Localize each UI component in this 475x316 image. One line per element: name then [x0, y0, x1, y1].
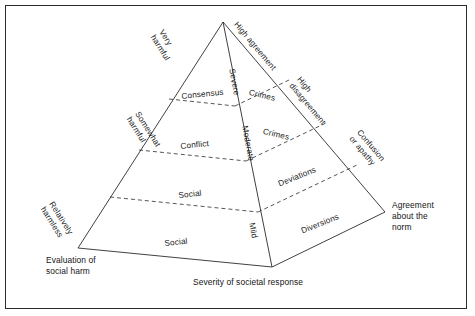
axis-label-evaluation-of-social-harm: Evaluation of social harm	[46, 255, 96, 277]
pyramid-base-left	[78, 248, 272, 267]
axis-label-severity-of-societal-response: Severity of societal response	[193, 277, 303, 288]
tier-divider-left-1	[169, 99, 235, 106]
tier-divider-left-2	[139, 150, 246, 161]
axis-label-agreement-about-the-norm: Agreement about the norm	[392, 200, 434, 232]
pyramid-right-edge	[223, 22, 385, 212]
figure-container: Consensus Conflict Social Social Crimes …	[0, 0, 475, 316]
